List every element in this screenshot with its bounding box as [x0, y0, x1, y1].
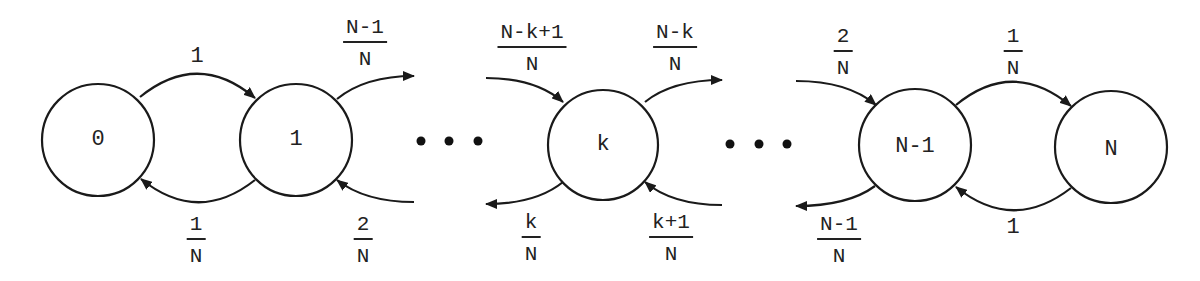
ellipsis-right: [726, 140, 792, 149]
edge-nm2-to-nm1: [796, 81, 876, 105]
rate-label-k-to-kp1: N-k N: [653, 22, 697, 75]
edge-2-to-1: [337, 180, 414, 202]
markov-chain-diagram: 0 1 k N-1 N 1 1 1 N N-1 N 2 N N-k+1 N N-…: [0, 0, 1200, 281]
rate-label-kp1-to-k: k+1 N: [649, 212, 693, 265]
edge-1-to-2: [337, 76, 414, 99]
edge-nm1-to-nm2: [796, 186, 875, 206]
rate-label-nm1-to-n: 1 N: [1004, 26, 1023, 79]
edge-n-to-nm1: [956, 187, 1071, 210]
edge-nm1-to-n: [956, 82, 1071, 106]
state-label-1: 1: [289, 129, 302, 151]
state-label-0: 0: [91, 129, 104, 151]
rate-label-nm1-to-nm2: N-1 N: [817, 214, 861, 267]
rate-label-n-to-nm1: 1: [1006, 217, 1019, 239]
rate-label-1-to-2: N-1 N: [343, 17, 387, 70]
state-label-n-minus-1: N-1: [895, 136, 935, 158]
edge-k-to-kp1: [645, 80, 722, 102]
edge-k-to-km1: [486, 182, 563, 204]
edge-kp1-to-k: [645, 182, 722, 205]
rate-label-k-to-km1: k N: [522, 212, 541, 265]
state-label-k: k: [596, 134, 609, 156]
state-label-n: N: [1104, 139, 1117, 161]
rate-label-2-to-1: 2 N: [354, 214, 373, 267]
rate-label-1-to-0: 1 N: [187, 214, 206, 267]
edge-1-to-0: [141, 179, 255, 202]
rate-label-km1-to-k: N-k+1 N: [497, 22, 566, 75]
ellipsis-left: [417, 137, 483, 146]
rate-label-nm2-to-nm1: 2 N: [834, 26, 853, 79]
edge-0-to-1: [140, 74, 255, 98]
rate-label-0-to-1: 1: [190, 46, 203, 68]
edge-km1-to-k: [486, 78, 563, 102]
